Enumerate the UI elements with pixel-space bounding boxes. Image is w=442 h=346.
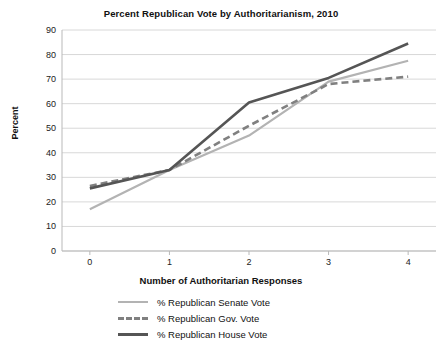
series-line-0 <box>90 61 408 210</box>
series-line-1 <box>90 77 408 186</box>
legend-item-house: % Republican House Vote <box>0 326 442 342</box>
series-line-2 <box>90 44 408 189</box>
legend-item-senate: % Republican Senate Vote <box>0 294 442 310</box>
chart-legend: % Republican Senate Vote % Republican Go… <box>0 294 442 342</box>
chart-container: Percent Republican Vote by Authoritarian… <box>0 0 442 346</box>
legend-swatch-senate-icon <box>118 297 148 307</box>
legend-item-gov: % Republican Gov. Vote <box>0 310 442 326</box>
legend-label-house: % Republican House Vote <box>157 329 267 340</box>
legend-label-gov: % Republican Gov. Vote <box>157 313 259 324</box>
legend-label-senate: % Republican Senate Vote <box>157 297 270 308</box>
x-axis-label: Number of Authoritarian Responses <box>0 275 442 286</box>
legend-swatch-house-icon <box>118 329 148 339</box>
legend-swatch-gov-icon <box>118 313 148 323</box>
